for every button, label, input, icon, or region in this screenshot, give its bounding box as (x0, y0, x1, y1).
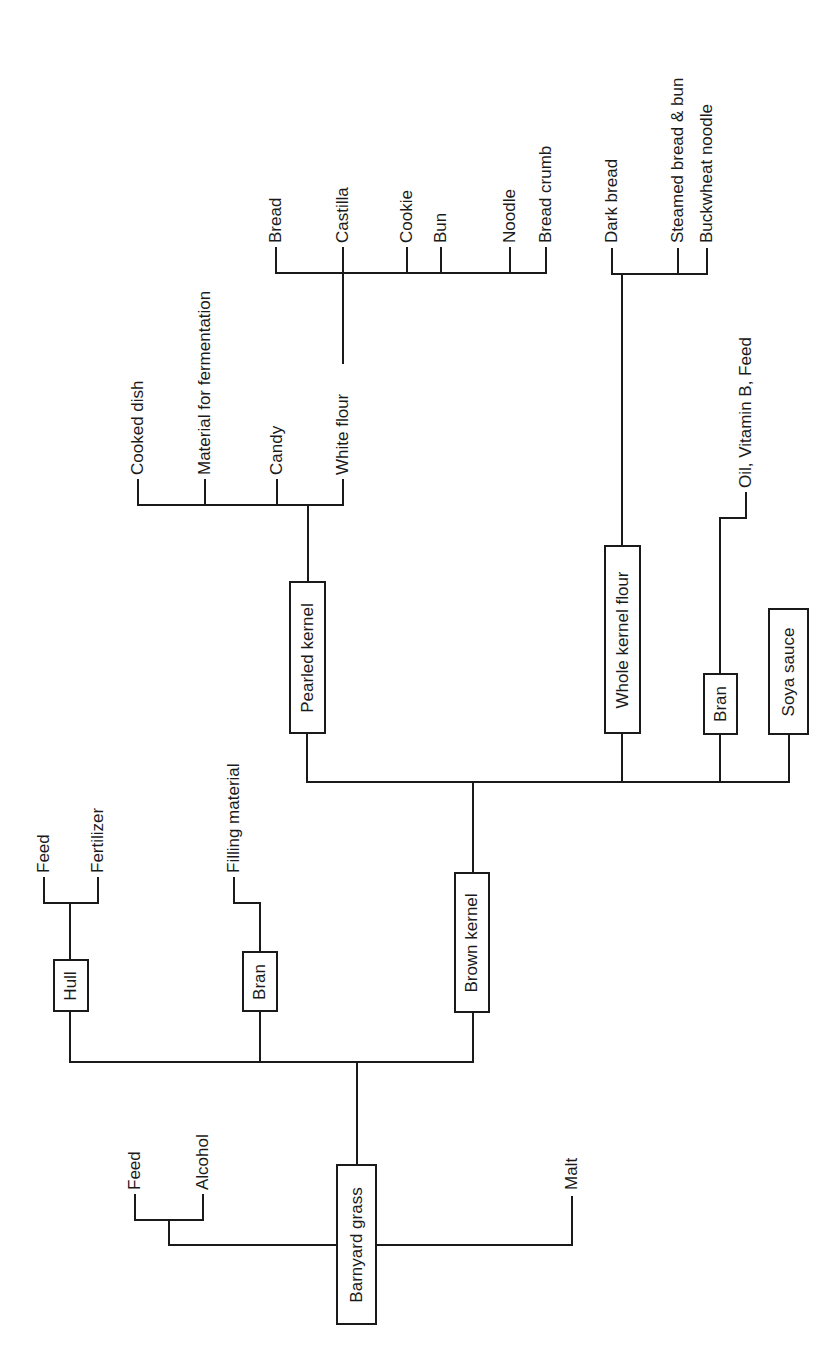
leaf-cooked-dish: Cooked dish (128, 380, 148, 475)
node-barnyard-grass: Barnyard grass (336, 1164, 377, 1325)
leaf-castilla: Castilla (333, 187, 353, 243)
node-label: Bran (711, 686, 731, 722)
leaf-bun: Bun (431, 213, 451, 243)
leaf-feed-1: Feed (125, 1151, 145, 1190)
node-label: Barnyard grass (347, 1187, 367, 1302)
node-label: Whole kernel flour (613, 571, 633, 708)
node-brown-kernel: Brown kernel (454, 872, 490, 1013)
node-label: Soya sauce (779, 627, 799, 716)
leaf-material-for-fermentation: Material for fermentation (195, 291, 215, 475)
node-hull: Hull (53, 959, 89, 1012)
leaf-fertilizer: Fertilizer (88, 808, 108, 873)
leaf-bread: Bread (266, 198, 286, 243)
node-label: Hull (61, 971, 81, 1000)
leaf-filling-material: Filling material (224, 763, 244, 873)
leaf-candy: Candy (267, 426, 287, 475)
leaf-buckwheat-noodle: Buckwheat noodle (697, 104, 717, 243)
leaf-alcohol: Alcohol (193, 1134, 213, 1190)
node-label: Pearled kernel (298, 603, 318, 713)
node-bran-2: Bran (703, 673, 738, 735)
leaf-oil-vitamin-b-feed: Oil, Vitamin B, Feed (736, 337, 756, 488)
node-label: Brown kernel (462, 893, 482, 992)
node-whole-kernel-flour: Whole kernel flour (604, 545, 641, 734)
node-soya-sauce: Soya sauce (768, 608, 809, 735)
leaf-noodle: Noodle (500, 189, 520, 243)
leaf-cookie: Cookie (397, 190, 417, 243)
node-bran-1: Bran (242, 951, 278, 1012)
leaf-malt: Malt (562, 1158, 582, 1190)
node-pearled-kernel: Pearled kernel (289, 581, 326, 734)
node-white-flour: White flour (333, 394, 353, 475)
leaf-dark-bread: Dark bread (602, 159, 622, 243)
barnyard-grass-utilization-diagram: Barnyard grass Hull Bran Brown kernel Pe… (0, 0, 839, 1356)
leaf-bread-crumb: Bread crumb (536, 146, 556, 243)
leaf-steamed-bread-bun: Steamed bread & bun (668, 78, 688, 243)
node-label: Bran (250, 964, 270, 1000)
leaf-feed-2: Feed (34, 834, 54, 873)
